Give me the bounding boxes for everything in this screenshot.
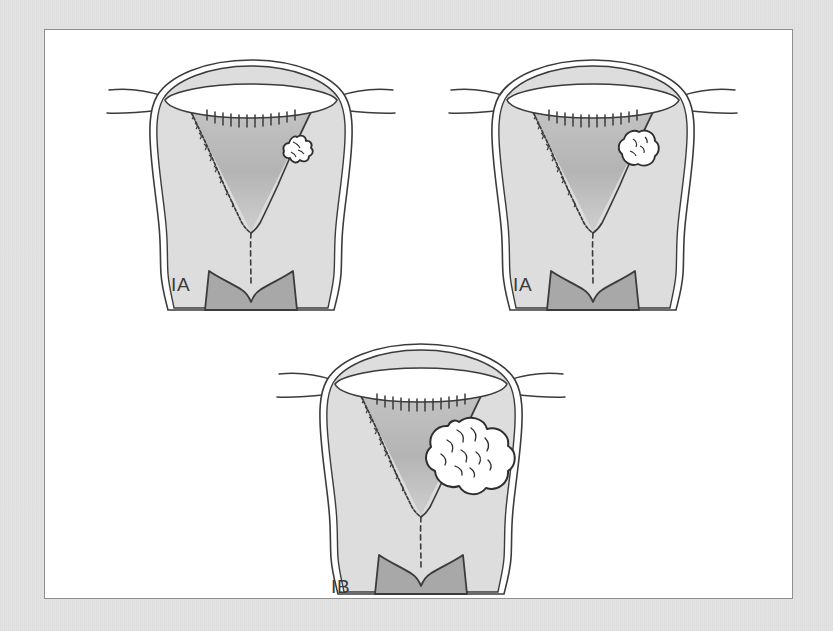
uterus-svg-2	[443, 34, 743, 334]
uterus-svg-3	[271, 318, 571, 599]
illustration-plate: IA	[44, 29, 793, 599]
figure-root: IA	[0, 0, 833, 631]
uterus-diagram-panel-1: IA	[101, 34, 401, 334]
uterus-diagram-panel-2: IA	[443, 34, 743, 334]
uterus-svg-1	[101, 34, 401, 334]
stage-label-panel-3: IB	[331, 576, 350, 598]
fundal-cavity-slit-3	[335, 368, 507, 402]
uterus-diagram-panel-3: IB	[271, 318, 571, 599]
stage-label-panel-2: IA	[513, 274, 532, 296]
fundal-cavity-slit-2	[507, 84, 679, 118]
tumor-lesion-2	[619, 131, 659, 166]
fundal-cavity-slit-1	[165, 84, 337, 118]
stage-label-panel-1: IA	[171, 274, 190, 296]
